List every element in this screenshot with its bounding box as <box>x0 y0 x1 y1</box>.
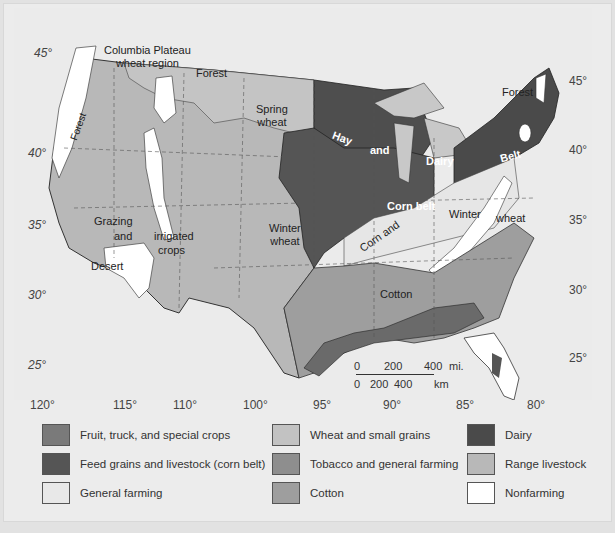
us-agriculture-map <box>14 8 592 400</box>
label-forest-ne: Forest <box>502 86 533 99</box>
lat-label: 45° <box>569 74 587 88</box>
lat-label: 35° <box>28 218 46 232</box>
legend-item: Cotton <box>272 482 344 504</box>
lat-label: 45° <box>34 46 52 60</box>
legend-item: Dairy <box>467 424 532 446</box>
lon-label: 110° <box>173 398 197 412</box>
label-cotton: Cotton <box>380 288 412 301</box>
legend-swatch <box>272 482 300 504</box>
label-forest-nw: Forest <box>196 67 227 80</box>
legend-item: General farming <box>42 482 162 504</box>
lon-label: 80° <box>527 398 545 412</box>
label-crops: crops <box>158 244 185 257</box>
label-columbia-plateau: Columbia Plateauwheat region <box>104 44 191 70</box>
lon-label: 120° <box>30 398 55 412</box>
label-dairy: Dairy <box>426 155 454 168</box>
lon-label: 85° <box>456 398 474 412</box>
legend-swatch <box>42 482 70 504</box>
lat-label: 30° <box>569 283 587 297</box>
legend-item: Feed grains and livestock (corn belt) <box>42 453 265 475</box>
label-winter-wheat: Winterwheat <box>269 222 301 248</box>
lat-label: 30° <box>28 288 46 302</box>
lat-label: 40° <box>569 143 587 157</box>
label-and-2: and <box>114 230 132 243</box>
lon-label: 95° <box>313 398 331 412</box>
label-and-1: and <box>370 144 390 157</box>
lon-label: 100° <box>243 398 268 412</box>
legend: Fruit, truck, and special crops Feed gra… <box>0 418 615 514</box>
lon-label: 115° <box>113 398 137 412</box>
lat-label: 40° <box>28 146 46 160</box>
lat-label: 35° <box>569 213 587 227</box>
region-adirondack-forest <box>519 124 531 142</box>
label-corn-belt: Corn belt <box>387 200 435 213</box>
lat-label: 25° <box>569 351 587 365</box>
legend-swatch <box>42 424 70 446</box>
legend-swatch <box>272 424 300 446</box>
legend-swatch <box>272 453 300 475</box>
label-grazing: Grazing <box>94 215 133 228</box>
legend-item: Nonfarming <box>467 482 564 504</box>
legend-swatch <box>467 482 495 504</box>
legend-swatch <box>42 453 70 475</box>
legend-item: Fruit, truck, and special crops <box>42 424 230 446</box>
legend-item: Tobacco and general farming <box>272 453 458 475</box>
lat-label: 25° <box>28 358 46 372</box>
map-area: 45° 40° 35° 30° 25° 45° 40° 35° 30° 25° … <box>14 8 592 400</box>
legend-swatch <box>467 424 495 446</box>
label-wheat-east: wheat <box>496 212 525 225</box>
scale-bar: 0 200 400 mi. 0 200 400 km <box>354 360 474 400</box>
label-desert: Desert <box>91 260 123 273</box>
label-spring-wheat: Springwheat <box>256 103 288 129</box>
legend-swatch <box>467 453 495 475</box>
legend-item: Wheat and small grains <box>272 424 430 446</box>
label-winter-east: Winter <box>449 208 481 221</box>
lon-label: 90° <box>383 398 401 412</box>
label-irrigated: irrigated <box>154 230 194 243</box>
legend-item: Range livestock <box>467 453 586 475</box>
region-ne-forest <box>536 74 546 103</box>
